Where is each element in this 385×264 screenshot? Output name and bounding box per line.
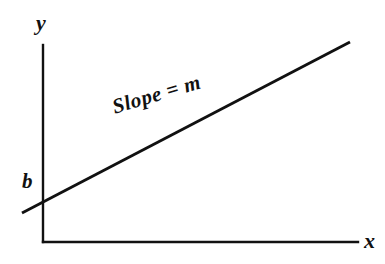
figure-canvas <box>0 0 385 264</box>
y-intercept-label: b <box>22 171 33 192</box>
y-axis-label: y <box>36 12 46 34</box>
slope-line <box>22 42 350 213</box>
x-axis-label: x <box>364 230 375 252</box>
linear-function-figure: y x b Slope = m <box>0 0 385 264</box>
